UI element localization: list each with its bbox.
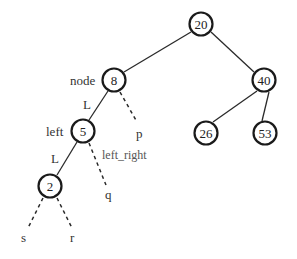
label-left: left — [46, 124, 64, 139]
tree-node-20: 20 — [190, 13, 213, 36]
node-value: 2 — [47, 179, 54, 194]
tree-node-5: 5 — [72, 120, 95, 143]
label-edge-L-upper: L — [83, 97, 91, 112]
edge-40-26 — [213, 91, 257, 122]
edge-40-53 — [262, 92, 269, 121]
node-value: 5 — [80, 124, 87, 139]
tree-node-26: 26 — [195, 122, 218, 145]
label-q: q — [105, 187, 112, 202]
edge-2-r-dashed — [57, 198, 72, 228]
tree-node-8: 8 — [103, 69, 126, 92]
edge-8-p-dashed — [120, 92, 137, 122]
node-value: 40 — [258, 73, 271, 88]
node-value: 26 — [200, 126, 214, 141]
edge-8-5 — [89, 91, 108, 120]
tree-node-53: 53 — [254, 122, 277, 145]
label-edge-L-lower: L — [51, 151, 59, 166]
tree-node-40: 40 — [253, 69, 276, 92]
label-p: p — [136, 126, 143, 141]
edge-2-s-dashed — [28, 198, 43, 228]
binary-tree-diagram: 20 8 40 5 26 53 2 node L p left left_rig… — [0, 0, 297, 259]
node-value: 20 — [195, 17, 208, 32]
node-value: 8 — [111, 73, 118, 88]
label-s: s — [21, 230, 26, 245]
label-r: r — [70, 230, 75, 245]
node-value: 53 — [259, 126, 272, 141]
edge-20-8 — [124, 32, 191, 72]
label-node: node — [70, 73, 96, 88]
tree-node-2: 2 — [39, 175, 62, 198]
edge-5-2 — [57, 142, 77, 175]
label-left-right: left_right — [102, 148, 147, 162]
edge-20-40 — [211, 32, 254, 72]
